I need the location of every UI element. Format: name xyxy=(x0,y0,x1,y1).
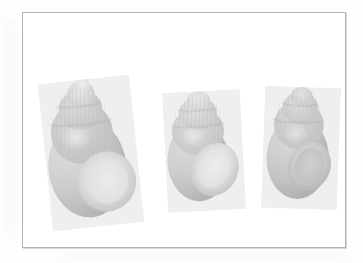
shell-right-body xyxy=(261,86,341,211)
shell-left-body xyxy=(38,75,145,232)
plate-inner-area xyxy=(23,13,345,247)
paper-smudge-bottom xyxy=(60,255,350,261)
page-canvas xyxy=(0,0,363,263)
shell-center-body xyxy=(162,89,246,213)
paper-smudge-left xyxy=(2,20,18,235)
shell-specimen-right xyxy=(261,86,341,211)
plate-frame xyxy=(22,12,346,248)
shell-specimen-left xyxy=(38,75,145,232)
shell-specimen-center xyxy=(162,89,246,213)
